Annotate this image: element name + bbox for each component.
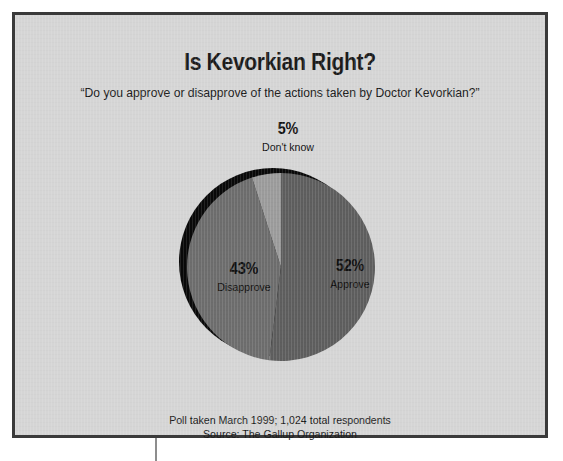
label-dont-know-name: Don't know [237,141,338,153]
pie-svg [15,15,551,441]
footer-note: Poll taken March 1999; 1,024 total respo… [36,413,524,427]
label-approve-pct: 52% [307,258,393,275]
label-dont-know-pct: 5% [239,121,338,138]
chart-footer: Poll taken March 1999; 1,024 total respo… [36,413,524,441]
page-title: Is Kevorkian Right? [47,48,513,76]
pie-chart [15,15,551,441]
label-disapprove: 43% Disapprove [192,261,296,293]
chart-panel: Is Kevorkian Right? “Do you approve or d… [12,12,548,438]
label-disapprove-name: Disapprove [196,281,292,293]
caption-stem-line [155,438,157,461]
footer-source: Source: The Gallup Organization [36,427,524,441]
chart-subtitle: “Do you approve or disapprove of the act… [42,85,519,100]
label-disapprove-pct: 43% [197,261,291,278]
chart-page: Is Kevorkian Right? “Do you approve or d… [0,0,563,461]
label-approve: 52% Approve [302,258,398,290]
label-dont-know: 5% Don't know [233,121,343,153]
label-approve-name: Approve [306,278,394,290]
